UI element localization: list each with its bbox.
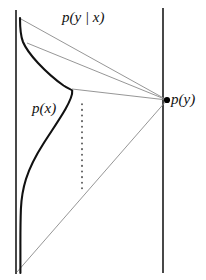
prior-density-curve (20, 18, 72, 273)
conditional-label: p(y | x) (62, 10, 104, 25)
figure-canvas (0, 0, 206, 280)
conditional-ray-top (21, 19, 167, 100)
conditional-ray-bottom (17, 100, 167, 272)
prior-x-label: p(x) (32, 101, 56, 116)
marginal-point (164, 97, 170, 103)
marginal-y-label: p(y) (171, 92, 195, 107)
probability-diagram-figure: p(y | x) p(y) p(x) (0, 0, 206, 280)
